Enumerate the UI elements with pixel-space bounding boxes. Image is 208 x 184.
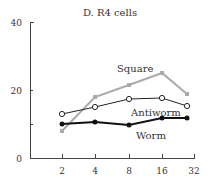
chart: D. R4 cells 40 20 0 2 4 8 16 32 bbox=[0, 0, 208, 184]
label-square: Square bbox=[117, 63, 153, 74]
x-tick-label: 2 bbox=[59, 166, 65, 176]
label-worm: Worm bbox=[136, 130, 166, 141]
y-tick-label: 40 bbox=[11, 18, 23, 28]
y-tick-label: 20 bbox=[11, 86, 23, 96]
x-tick-label: 32 bbox=[188, 166, 199, 176]
y-tick-label: 0 bbox=[16, 154, 22, 164]
x-tick-label: 16 bbox=[156, 166, 168, 176]
chart-title: D. R4 cells bbox=[83, 7, 137, 18]
label-antiworm: Antiworm bbox=[130, 107, 181, 118]
x-ticks bbox=[63, 154, 195, 158]
x-tick-label: 8 bbox=[126, 166, 132, 176]
x-tick-label: 4 bbox=[92, 166, 98, 176]
